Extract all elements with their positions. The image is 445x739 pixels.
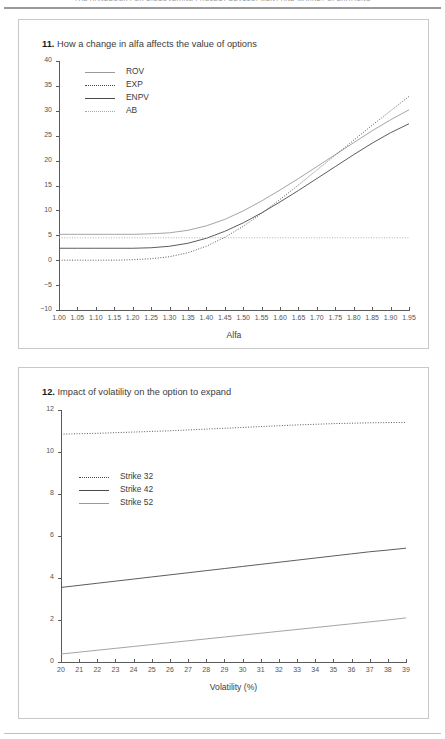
chart-12-ytick-label: 4	[30, 573, 54, 580]
chart-12-series-line	[61, 618, 406, 654]
figure-caption-11: 11. How a change in alfa affects the val…	[42, 39, 257, 49]
figure-title-11: How a change in alfa affects the value o…	[57, 39, 257, 49]
chart-12-legend-label: Strike 42	[120, 484, 153, 494]
running-head-text: THE HANDBOOK FOR DISCOVERING PROJECT DEV…	[0, 0, 445, 2]
chart-11-ytick-label: 20	[28, 156, 52, 163]
chart-11-xtick-label: 1.95	[397, 314, 421, 321]
chart-11-ytick-label: 10	[28, 206, 52, 213]
figure-number-11: 11.	[42, 39, 54, 49]
chart-11-ytick-label: 35	[28, 81, 52, 88]
chart-11-legend-swatch	[85, 85, 115, 86]
chart-11-ytick-label: 0	[28, 256, 52, 263]
chart-11-series-line	[59, 124, 409, 249]
chart-11-ytick-label: 5	[28, 231, 52, 238]
chart-12-plot-area: 1210864202021222324252627282930313233343…	[61, 410, 406, 662]
chart-11-series-line	[59, 110, 409, 235]
chart-11-ytick-label: 30	[28, 106, 52, 113]
figure-panel-12: 12. Impact of volatility on the option t…	[18, 367, 429, 719]
chart-11-legend-label: EXP	[126, 79, 143, 89]
chart-12-ytick-label: 0	[30, 657, 54, 664]
chart-11-series-line	[59, 96, 409, 260]
chart-11-ytick-label: 25	[28, 131, 52, 138]
footer-rule	[4, 733, 441, 734]
chart-12-legend-swatch	[79, 503, 109, 504]
chart-12-ytick-label: 6	[30, 531, 54, 538]
figure-number-12: 12.	[42, 387, 55, 397]
running-head: THE HANDBOOK FOR DISCOVERING PROJECT DEV…	[0, 0, 445, 7]
figure-caption-12: 12. Impact of volatility on the option t…	[42, 387, 231, 397]
chart-12-series-layer	[61, 410, 406, 662]
chart-12-xaxis-line	[61, 662, 406, 663]
chart-12-ytick-label: 2	[30, 615, 54, 622]
chart-11-legend-label: ENPV	[126, 92, 149, 102]
chart-12-legend-swatch	[79, 490, 109, 491]
chart-12-ytick-label: 10	[30, 447, 54, 454]
chart-11-legend-swatch	[85, 98, 115, 99]
figure-panel-11: 11. How a change in alfa affects the val…	[18, 19, 429, 349]
chart-11-ytick-label: 40	[28, 56, 52, 63]
chart-11-legend-swatch	[85, 111, 115, 112]
chart-11-xtick	[409, 307, 410, 311]
chart-11-legend-label: AB	[126, 105, 137, 115]
chart-12-ytick-label: 12	[30, 405, 54, 412]
chart-12-legend-label: Strike 32	[120, 471, 153, 481]
chart-12-legend-label: Strike 52	[120, 497, 153, 507]
chart-11-xaxis-line	[59, 310, 409, 311]
chart-12-series-line	[61, 548, 406, 587]
chart-12-ytick-label: 8	[30, 489, 54, 496]
figure-title-12: Impact of volatility on the option to ex…	[58, 387, 232, 397]
chart-11-xaxis-title: Alfa	[59, 330, 409, 340]
header-rule	[4, 7, 441, 9]
chart-11-ytick-label: 15	[28, 181, 52, 188]
chart-11-ytick-label: −5	[28, 281, 52, 288]
chart-11-legend-label: ROV	[126, 66, 144, 76]
chart-11-ytick-label: −10	[28, 305, 52, 312]
chart-12-legend-swatch	[79, 477, 109, 478]
chart-12-xaxis-title: Volatility (%)	[61, 682, 406, 692]
chart-12-xtick-label: 39	[394, 666, 418, 673]
chart-12-xtick	[406, 659, 407, 663]
chart-11-legend-swatch	[85, 72, 115, 73]
chart-12-series-line	[61, 422, 406, 434]
page-root: THE HANDBOOK FOR DISCOVERING PROJECT DEV…	[0, 0, 445, 739]
